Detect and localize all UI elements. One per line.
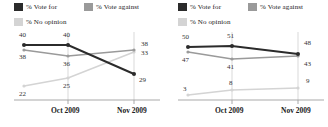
value-label-vote-against-2: 38: [141, 41, 148, 48]
marker-vote-against-0: [22, 48, 25, 51]
legend-item-no-opinion: % No opinion: [178, 18, 230, 26]
marker-vote-against-0: [186, 50, 189, 53]
legend-swatch-vote-for: [178, 3, 187, 11]
plot-area-right: 50 51 48 47 41 43 3 8 9 Oct 2009 Nov 200…: [164, 30, 328, 127]
x-axis-label-oct: Oct 2009: [51, 107, 80, 115]
marker-vote-for-2: [296, 52, 300, 56]
value-label-vote-against-1: 36: [63, 61, 70, 68]
value-label-no-opinion-0: 3: [183, 86, 187, 93]
marker-vote-for-2: [132, 72, 136, 76]
value-label-vote-against-1: 41: [227, 64, 234, 71]
legend-swatch-vote-against: [248, 3, 257, 11]
legend-item-vote-for: % Vote for: [178, 3, 221, 11]
value-label-vote-for-0: 50: [182, 34, 189, 41]
value-label-no-opinion-2: 33: [141, 50, 148, 57]
marker-no-opinion-2: [296, 86, 299, 89]
legend-item-vote-against: % Vote against: [248, 3, 303, 11]
x-axis-label-nov: Nov 2009: [281, 107, 311, 115]
marker-no-opinion-0: [22, 84, 25, 87]
marker-no-opinion-1: [230, 88, 233, 91]
series-line-vote-for: [188, 46, 298, 54]
series-line-vote-against: [188, 52, 298, 59]
value-label-vote-for-0: 40: [19, 32, 26, 39]
legend-item-vote-against: % Vote against: [84, 3, 139, 11]
legend-item-vote-for: % Vote for: [14, 3, 57, 11]
plot-area-left: 40 40 29 38 36 38 22 25 33 Oct 2009 Nov …: [0, 30, 164, 127]
marker-vote-for-1: [230, 44, 234, 48]
x-axis-label-oct: Oct 2009: [215, 107, 244, 115]
value-label-no-opinion-1: 25: [63, 83, 70, 90]
marker-no-opinion-1: [66, 76, 69, 79]
x-axis-label-nov: Nov 2009: [117, 107, 147, 115]
legend-right: % Vote for % Vote against % No opinion: [164, 0, 328, 30]
value-label-vote-against-0: 38: [19, 54, 26, 61]
marker-vote-for-1: [66, 43, 70, 47]
legend-label-vote-for: % Vote for: [26, 3, 57, 11]
chart-panel-left: % Vote for % Vote against % No opinion: [0, 0, 164, 127]
marker-vote-for-0: [22, 43, 26, 47]
legend-label-vote-against: % Vote against: [96, 3, 139, 11]
value-label-no-opinion-0: 22: [19, 91, 26, 98]
legend-label-no-opinion: % No opinion: [190, 18, 230, 26]
series-line-vote-for: [24, 45, 134, 74]
legend-left: % Vote for % Vote against % No opinion: [0, 0, 164, 30]
marker-vote-against-1: [230, 57, 233, 60]
legend-swatch-vote-for: [14, 3, 23, 11]
value-label-no-opinion-2: 9: [306, 78, 310, 85]
value-label-vote-for-2: 29: [139, 77, 146, 84]
value-label-vote-against-2: 43: [304, 61, 311, 68]
chart-panel-right: % Vote for % Vote against % No opinion: [164, 0, 328, 127]
legend-swatch-vote-against: [84, 3, 93, 11]
legend-swatch-no-opinion: [178, 18, 187, 26]
marker-vote-against-2: [132, 48, 135, 51]
series-line-no-opinion: [24, 52, 134, 86]
legend-item-no-opinion: % No opinion: [14, 18, 66, 26]
marker-no-opinion-0: [186, 93, 189, 96]
legend-label-vote-against: % Vote against: [260, 3, 303, 11]
value-label-vote-for-1: 40: [63, 32, 70, 39]
marker-vote-against-1: [66, 54, 69, 57]
legend-label-no-opinion: % No opinion: [26, 18, 66, 26]
value-label-vote-for-1: 51: [227, 33, 234, 40]
chart-pair-container: % Vote for % Vote against % No opinion: [0, 0, 328, 127]
legend-label-vote-for: % Vote for: [190, 3, 221, 11]
value-label-vote-against-0: 47: [182, 57, 189, 64]
marker-vote-for-0: [186, 45, 190, 49]
value-label-vote-for-2: 48: [304, 40, 311, 47]
series-line-no-opinion: [188, 88, 298, 95]
legend-swatch-no-opinion: [14, 18, 23, 26]
value-label-no-opinion-1: 8: [229, 80, 233, 87]
